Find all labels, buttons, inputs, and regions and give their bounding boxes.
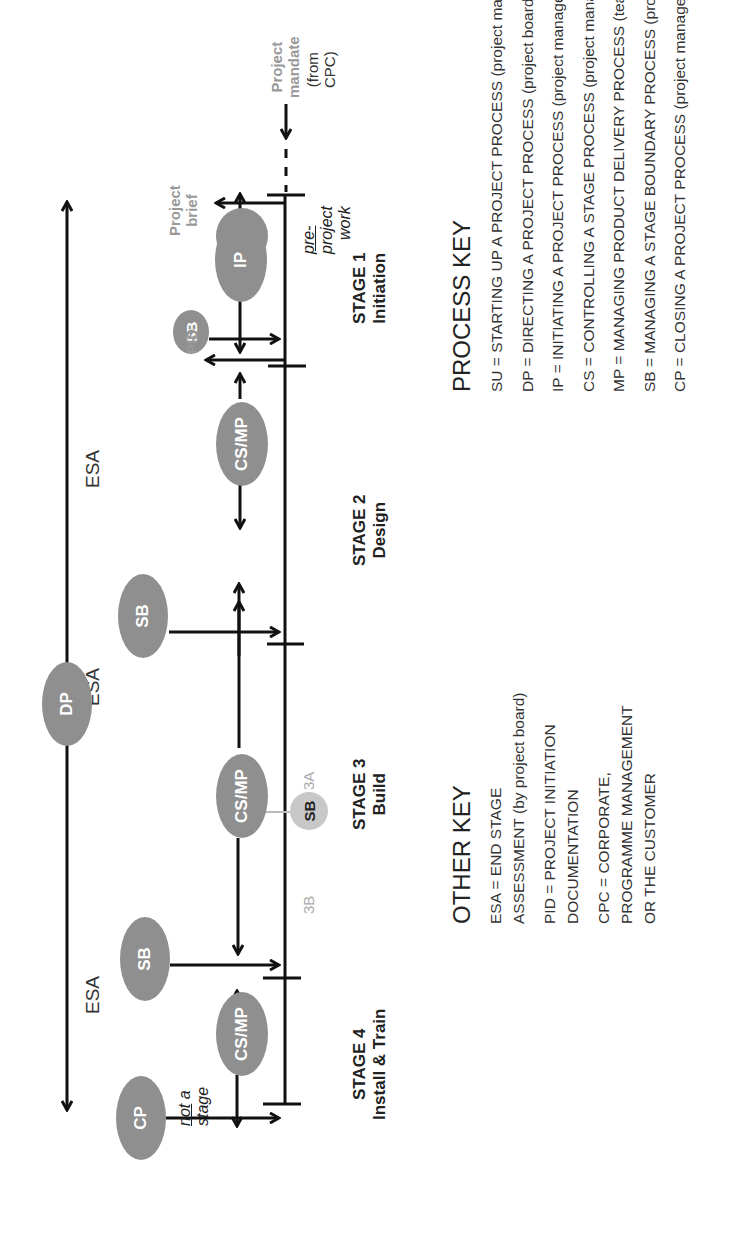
sub-stage-3a-label: 3A	[300, 772, 317, 790]
not-a-stage-label: not a stage	[176, 1087, 212, 1126]
process-key-title: PROCESS KEY	[448, 0, 476, 392]
sb-stage3-bubble: SB	[120, 917, 170, 1001]
stage-2-label: STAGE 2 Design	[350, 495, 390, 566]
esa-label-stage1: ESA	[82, 450, 104, 488]
cp-bubble: CP	[116, 1076, 166, 1160]
sb-stage2-bubble: SB	[118, 574, 168, 658]
process-key-item: DP = DIRECTING A PROJECT PROCESS (projec…	[513, 0, 544, 392]
other-key-title: OTHER KEY	[448, 634, 476, 924]
project-brief-label: Project brief	[166, 185, 200, 236]
cs-mp-stage4-bubble: CS/MP	[216, 992, 268, 1076]
process-key: PROCESS KEY SU = STARTING UP A PROJECT P…	[448, 0, 696, 392]
dp-bubble: DP	[42, 662, 92, 746]
cp-label: CP	[131, 1106, 151, 1130]
cs-mp-stage4-label: CS/MP	[232, 1007, 252, 1061]
project-mandate-label: Project mandate	[268, 36, 302, 98]
other-key-entry-cpc: CPC = CORPORATE, PROGRAMME MANAGEMENT OR…	[592, 634, 661, 924]
cs-mp-stage2-label: CS/MP	[232, 417, 252, 471]
pre-project-work-label: pre- project work	[300, 206, 354, 254]
other-key-entry-pid: PID = PROJECT INITIATION DOCUMENTATION	[538, 634, 584, 924]
cs-mp-stage2-bubble: CS/MP	[216, 402, 268, 486]
sb-stage3-mid-label: SB	[301, 801, 318, 822]
process-key-item: MP = MANAGING PRODUCT DELIVERY PROCESS (…	[604, 0, 635, 392]
cs-mp-stage3-label: CS/MP	[232, 769, 252, 823]
ip-bubble: IP	[215, 218, 267, 302]
sub-stage-3b-label: 3B	[300, 896, 317, 914]
pid-label: PID	[183, 329, 200, 354]
sb-stage2-label: SB	[133, 604, 153, 628]
stage-3-label: STAGE 3 Build	[350, 759, 390, 830]
sb-stage3-mid-bubble: SB	[290, 792, 328, 830]
from-cpc-label: (from CPC)	[304, 51, 338, 88]
process-key-item: IP = INITIATING A PROJECT PROCESS (proje…	[543, 0, 574, 392]
ip-label: IP	[231, 252, 251, 268]
other-key-entry-esa: ESA = END STAGE ASSESSMENT (by project b…	[484, 634, 530, 924]
sb-stage3-label: SB	[135, 947, 155, 971]
process-key-item: CP = CLOSING A PROJECT PROCESS (project …	[665, 0, 696, 392]
stage-4-label: STAGE 4 Install & Train	[350, 1009, 390, 1120]
esa-label-stage3: ESA	[82, 976, 104, 1014]
process-key-item: SU = STARTING UP A PROJECT PROCESS (proj…	[482, 0, 513, 392]
dp-label: DP	[57, 692, 77, 716]
other-key-block: OTHER KEY ESA = END STAGE ASSESSMENT (by…	[448, 634, 661, 924]
cs-mp-stage3-bubble: CS/MP	[216, 754, 268, 838]
stage-1-label: STAGE 1 Initiation	[350, 253, 390, 324]
process-key-item: SB = MANAGING A STAGE BOUNDARY PROCESS (…	[635, 0, 666, 392]
prince2-process-diagram: ESA ESA ESA SU IP SB CS/MP SB DP CS/MP S…	[0, 0, 732, 1254]
process-key-item: CS = CONTROLLING A STAGE PROCESS (projec…	[574, 0, 605, 392]
